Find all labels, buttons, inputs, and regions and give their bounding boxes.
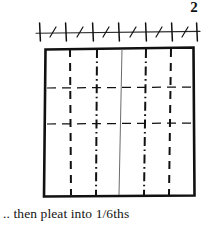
vertical-fold-lines <box>70 49 171 195</box>
figure-root: 2 .. then pleat into 1/6ths <box>0 0 208 225</box>
vertical-fold-fold-3 <box>119 49 122 195</box>
ruler-major-tick-7 <box>197 23 198 41</box>
ruler-major-tick-5 <box>146 23 147 41</box>
ruler-major-tick-2 <box>66 23 67 41</box>
ruler-major-tick-3 <box>93 23 94 41</box>
ruler-major-tick-1 <box>40 23 41 41</box>
ruler-major-tick-4 <box>119 23 120 41</box>
ruler-major-tick-6 <box>172 23 173 41</box>
horizontal-guide-guide-1 <box>47 87 192 88</box>
vertical-fold-fold-2 <box>96 49 97 195</box>
vertical-fold-fold-4 <box>144 49 146 195</box>
ruler-baseline <box>36 31 200 33</box>
ruler-minor-tick-2 <box>77 27 83 37</box>
vertical-fold-fold-1 <box>70 49 71 195</box>
figure-caption: .. then pleat into 1/6ths <box>3 206 129 222</box>
pleating-diagram <box>0 0 208 205</box>
measuring-ruler <box>36 23 200 41</box>
vertical-fold-fold-5 <box>169 49 171 195</box>
ruler-minor-tick-1 <box>50 27 56 37</box>
